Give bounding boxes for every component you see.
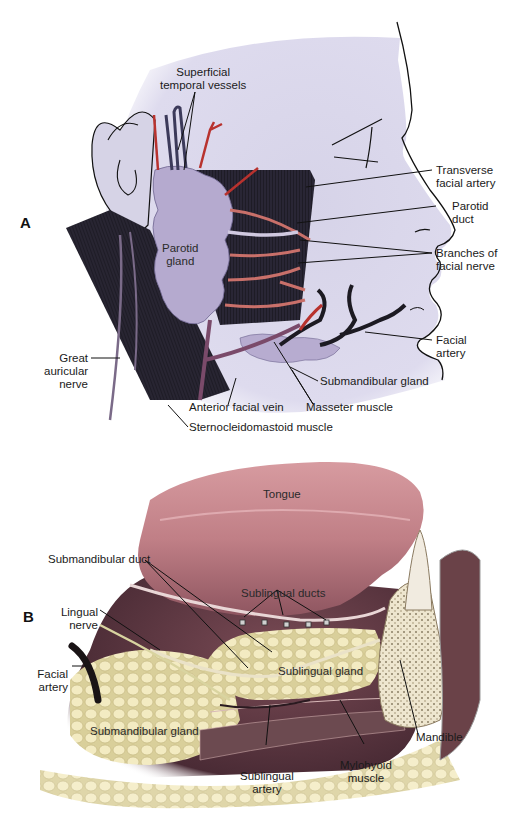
panel-b-letter: B [23,608,34,625]
label-great-auricular-nerve: Great auricular nerve [44,352,88,391]
panel-a-letter: A [20,214,31,231]
label-sublingual-gland: Sublingual gland [278,665,363,678]
label-sternocleidomastoid-muscle: Sternocleidomastoid muscle [189,421,333,434]
label-parotid-gland: Parotid gland [162,242,198,268]
label-lingual-nerve: Lingual nerve [56,606,98,632]
label-mandible: Mandible [416,731,463,744]
label-mylohyoid-muscle: Mylohyoid muscle [340,759,392,785]
label-facial-artery-b: Facial artery [30,668,68,694]
label-masseter-muscle: Masseter muscle [306,401,393,414]
label-tongue: Tongue [263,488,301,501]
label-submandibular-gland-b: Submandibular gland [90,725,199,738]
label-sublingual-ducts: Sublingual ducts [241,587,325,600]
panel-b-illustration [40,462,480,808]
label-sublingual-artery: Sublingual artery [240,770,294,796]
label-parotid-duct: Parotid duct [452,200,488,226]
label-submandibular-duct: Submandibular duct [48,553,150,566]
label-submandibular-gland-a: Submandibular gland [320,375,429,388]
label-transverse-facial-artery: Transverse facial artery [436,164,495,190]
label-superficial-temporal-vessels: Superficial temporal vessels [160,66,246,92]
label-branches-facial-nerve: Branches of facial nerve [436,247,497,273]
label-anterior-facial-vein: Anterior facial vein [189,401,284,414]
label-facial-artery-a: Facial artery [436,334,467,360]
panel-a-illustration [66,22,455,427]
